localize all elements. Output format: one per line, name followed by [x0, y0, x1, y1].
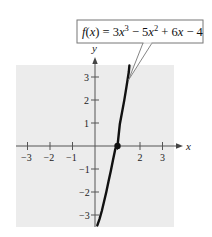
x-tick-label: 2: [138, 152, 143, 163]
y-axis-arrow-icon: [92, 57, 97, 64]
y-tick-label: 3: [84, 72, 89, 83]
function-label: f(x) = 3x3 − 5x2 + 6x − 4: [82, 23, 204, 39]
y-tick-label: −2: [79, 187, 90, 198]
y-tick-label: 2: [84, 95, 89, 106]
x-tick-label: 3: [160, 152, 165, 163]
y-tick-label: −3: [79, 210, 90, 221]
x-tick-label: −3: [21, 152, 32, 163]
root-point-marker: [114, 143, 120, 149]
y-tick-label: 1: [84, 118, 89, 129]
y-axis-label: y: [91, 42, 97, 54]
x-axis-label: x: [185, 140, 191, 152]
function-graph: x −3 −2 −1 2 3 y 3 2 1 −1 −2: [0, 0, 212, 237]
x-tick-label: −1: [66, 152, 77, 163]
x-tick-label: −2: [44, 152, 55, 163]
y-tick-label: −1: [79, 164, 90, 175]
x-axis-arrow-icon: [176, 143, 183, 148]
